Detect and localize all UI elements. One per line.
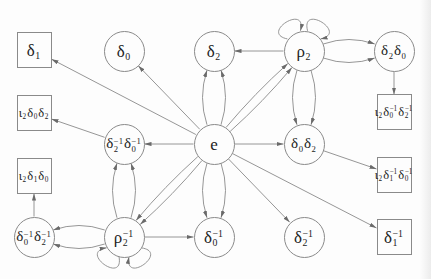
node-delta2inv: δ−12: [284, 217, 325, 258]
edge-delta0-delta2-to-iota2-delta1inv-delta0inv: [323, 151, 376, 169]
edge-e-to-rho2inv: [136, 157, 198, 221]
subscript: 1: [393, 238, 403, 247]
symbol-base: δ: [294, 229, 302, 246]
edge-e-to-delta0inv: [221, 163, 225, 217]
edge-rho2inv-to-delta0inv-delta2inv: [53, 225, 104, 229]
label-symbol: δ0: [38, 169, 49, 183]
node-label: δ2δ0: [381, 43, 407, 60]
node-label: ι2δ1δ0: [19, 169, 50, 183]
label-symbol: δ−10: [124, 136, 142, 153]
label-symbol: δ0: [291, 136, 304, 153]
node-label: δ1: [27, 41, 41, 60]
symbol-base: δ: [384, 229, 392, 246]
node-label: δ0δ2: [291, 136, 317, 153]
label-symbol: δ2: [381, 43, 394, 60]
label-symbol: δ0: [394, 43, 407, 60]
node-label: ι2δ−11δ−10: [375, 168, 414, 182]
label-symbol: δ0: [117, 42, 131, 61]
node-label: δ0: [117, 42, 131, 61]
edge-rho2-to-delta2-delta0: [323, 39, 374, 43]
symbol-base: δ: [34, 229, 41, 244]
edge-e-to-rho2: [226, 64, 288, 128]
symbol-base: ι: [375, 106, 378, 119]
node-delta0inv-delta2inv: δ−10δ−12: [14, 217, 55, 258]
node-label: ρ2: [297, 42, 312, 61]
subscript: 0: [132, 145, 141, 153]
node-label: ρ−12: [114, 228, 134, 247]
node-delta1inv: δ−11: [377, 219, 412, 255]
node-label: δ2: [207, 42, 221, 61]
node-delta0inv: δ−10: [194, 217, 235, 258]
subscript: 0: [390, 113, 398, 120]
symbol-base: ρ: [114, 229, 122, 246]
node-iota2-delta1-delta0: ι2δ1δ0: [17, 158, 52, 194]
subscript: 0: [125, 52, 130, 62]
subscript: 2: [389, 52, 393, 61]
edge-rho2-to-delta0-delta2: [311, 70, 315, 124]
subscript: 2: [215, 52, 220, 62]
node-iota2-delta0inv-delta2inv: ι2δ−10δ−12: [377, 94, 412, 130]
node-label: δ−11: [384, 228, 404, 247]
subscript: 0: [405, 176, 413, 183]
label-symbol: δ0: [27, 106, 38, 120]
symbol-base: δ: [124, 136, 131, 151]
symbol-base: ρ: [297, 43, 305, 60]
subscript: 0: [402, 52, 406, 61]
node-delta1: δ1: [17, 32, 52, 68]
label-symbol: δ−10: [16, 229, 34, 246]
label-symbol: δ−12: [398, 105, 413, 119]
node-label: ι2δ−10δ−12: [375, 105, 414, 119]
node-label: δ−10: [204, 228, 224, 247]
cayley-graph-diagram: δ1δ0δ2ρ2δ2δ0ι2δ0δ2δ−12δ−10eδ0δ2ι2δ−10δ−1…: [0, 0, 431, 279]
symbol-base: δ: [106, 136, 113, 151]
label-symbol: δ−12: [34, 229, 52, 246]
subscript: 2: [123, 238, 133, 247]
edge-e-to-rho2inv: [140, 161, 202, 225]
node-label: e: [210, 136, 218, 153]
label-symbol: ι2: [19, 106, 28, 120]
subscript: 0: [299, 145, 303, 154]
subscript: 2: [379, 113, 383, 120]
subscript: 2: [306, 52, 311, 62]
edge-rho2inv-to-delta2inv-delta0inv: [131, 163, 135, 217]
symbol-base: δ: [27, 107, 33, 120]
edge-e-to-delta2: [202, 70, 206, 124]
symbol-base: δ: [16, 229, 23, 244]
label-symbol: δ−11: [383, 168, 398, 182]
label-symbol: e: [210, 136, 218, 153]
subscript: 0: [45, 177, 49, 184]
node-delta0: δ0: [104, 31, 145, 72]
node-rho2inv: ρ−12: [104, 217, 145, 258]
edge-rho2inv-to-delta0inv-delta2inv: [53, 244, 104, 248]
node-delta0-delta2: δ0δ2: [284, 124, 325, 165]
label-symbol: δ−10: [398, 168, 413, 182]
edge-e-to-delta2: [221, 70, 225, 124]
subscript: 0: [34, 114, 38, 121]
symbol-base: δ: [383, 169, 389, 182]
subscript: 1: [390, 176, 398, 183]
edge-delta2inv-delta0inv-to-iota2-delta0-delta2: [52, 119, 105, 137]
symbol-base: δ: [207, 43, 215, 60]
subscript: 1: [34, 177, 38, 184]
subscript: 2: [114, 145, 123, 153]
label-symbol: δ1: [27, 41, 41, 60]
node-iota2-delta1inv-delta0inv: ι2δ−11δ−10: [377, 157, 412, 193]
subscript: 2: [42, 238, 51, 246]
subscript: 2: [312, 145, 316, 154]
subscript: 2: [379, 176, 383, 183]
edge-e-to-delta0inv: [202, 163, 206, 217]
label-symbol: ρ2: [297, 42, 312, 61]
symbol-base: δ: [398, 169, 404, 182]
label-symbol: ι2: [375, 105, 384, 119]
node-label: δ−12δ−10: [106, 136, 142, 153]
symbol-base: ι: [19, 107, 22, 120]
label-symbol: δ2: [207, 42, 221, 61]
subscript: 2: [45, 114, 49, 121]
node-label: ι2δ0δ2: [19, 106, 50, 120]
subscript: 2: [405, 113, 413, 120]
node-label: δ−10δ−12: [16, 229, 52, 246]
symbol-base: δ: [381, 43, 388, 58]
label-symbol: ι2: [19, 169, 28, 183]
label-symbol: δ−10: [383, 105, 398, 119]
symbol-base: δ: [27, 42, 35, 59]
